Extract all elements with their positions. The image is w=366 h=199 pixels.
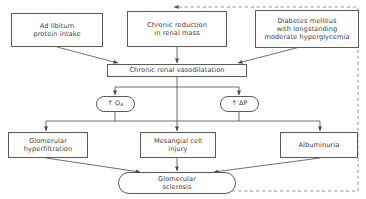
node-label: Albuminuria (296, 141, 341, 149)
node-label: ↑ QA (106, 100, 126, 108)
node-label: Diabetes mellitus with longstanding mode… (262, 17, 351, 41)
node-label: ↑ ΔP (229, 100, 249, 108)
node-label: Chronic renal vasodilatation (127, 66, 226, 74)
edge-albuminuria-to-sclerosis (214, 158, 320, 172)
node-mesangial-cell-injury[interactable]: Mesangial cell injury (140, 132, 216, 158)
node-increased-delta-p[interactable]: ↑ ΔP (220, 96, 259, 112)
qa-subscript: A (120, 102, 123, 107)
flowchart-diagram: Ad libitum protein intake Chronic reduct… (0, 0, 366, 199)
node-label: Mesangial cell injury (152, 137, 204, 153)
node-albuminuria[interactable]: Albuminuria (280, 132, 358, 158)
node-chronic-renal-vasodilatation[interactable]: Chronic renal vasodilatation (107, 64, 247, 77)
node-glomerular-hyperfiltration[interactable]: Glomerular hyperfiltration (8, 132, 88, 158)
node-ad-libitum-protein-intake[interactable]: Ad libitum protein intake (11, 13, 103, 47)
dp-symbol: ↑ ΔP (231, 99, 247, 107)
node-chronic-reduction-renal-mass[interactable]: Chronic reduction in renal mass (127, 11, 227, 47)
node-label: Glomerular hyperfiltration (22, 137, 75, 153)
node-label: Chronic reduction in renal mass (145, 21, 209, 37)
node-increased-qa[interactable]: ↑ QA (96, 96, 135, 112)
node-label: Glomerular sclerosis (156, 175, 198, 191)
edge-hyperfiltration-to-sclerosis (46, 158, 140, 172)
edge-diabetes-to-vasodilatation (238, 47, 300, 63)
node-glomerular-sclerosis[interactable]: Glomerular sclerosis (118, 172, 236, 194)
edge-ad-libitum-to-vasodilatation (57, 47, 118, 63)
edge-vasodilatation-split (115, 77, 239, 87)
node-label: Ad libitum protein intake (31, 22, 82, 38)
qa-symbol: ↑ Q (108, 99, 121, 107)
node-diabetes-mellitus[interactable]: Diabetes mellitus with longstanding mode… (255, 10, 359, 48)
